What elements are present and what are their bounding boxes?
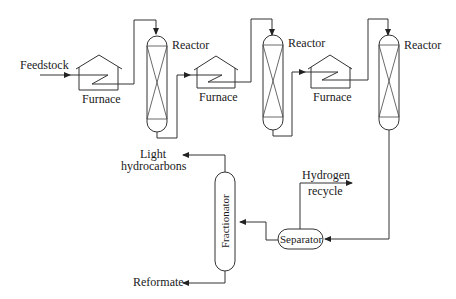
feedstock-label: Feedstock — [20, 58, 69, 72]
furnace-1-label: Furnace — [82, 92, 121, 106]
separator-label: Separator — [280, 233, 322, 245]
furnace-3-label: Furnace — [313, 90, 352, 104]
hydrogen-label-1: Hydrogen — [302, 168, 350, 182]
reformate-label: Reformate — [133, 275, 184, 289]
reactor-1-label: Reactor — [172, 38, 209, 52]
reactor-3-label: Reactor — [404, 38, 441, 52]
fractionator-label: Fractionator — [219, 194, 231, 248]
light-hydrocarbons-label-2: hydrocarbons — [121, 159, 187, 173]
furnace-2-label: Furnace — [199, 90, 238, 104]
reactor-3 — [325, 35, 399, 239]
hydrogen-label-2: recycle — [308, 184, 343, 198]
process-flow-diagram: Feedstock Furnace Reactor Furnace Reacto… — [0, 0, 456, 299]
furnace-1 — [70, 20, 156, 90]
furnace-2 — [190, 19, 272, 88]
reactor-2-label: Reactor — [288, 36, 325, 50]
reactor-2 — [263, 35, 305, 136]
furnace-3 — [305, 19, 388, 88]
